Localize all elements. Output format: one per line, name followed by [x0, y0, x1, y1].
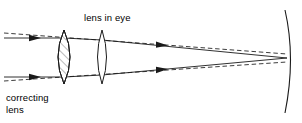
eye-lens-body [98, 30, 107, 84]
upper-dashed-ray [4, 33, 287, 54]
lower-dashed-ray [4, 62, 287, 81]
optics-figure: lens in eye correcting lens [0, 0, 302, 123]
upper-solid-ray [4, 38, 287, 58]
ray-diagram-canvas: lens in eye correcting lens [0, 0, 302, 123]
eye-lens [98, 30, 107, 84]
correcting-lens-label-line2: lens [6, 104, 24, 115]
lower-solid-ray [4, 58, 287, 77]
upper-right-arrowhead-icon [156, 41, 168, 47]
rays-group [4, 33, 287, 81]
upper-left-arrowhead-icon [29, 35, 41, 41]
correcting-lens-label-line1: correcting [6, 92, 49, 103]
lens-in-eye-label: lens in eye [84, 12, 131, 23]
retina-arc [285, 10, 291, 113]
